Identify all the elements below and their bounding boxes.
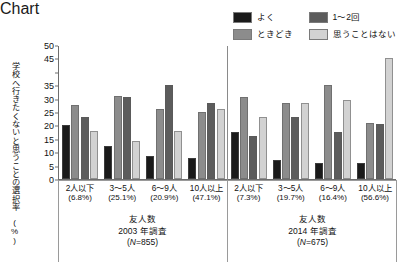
- bar: [259, 117, 267, 179]
- bar: [71, 105, 79, 179]
- bar: [207, 103, 215, 179]
- bar: [198, 112, 206, 179]
- y-tick-label: 30: [44, 95, 54, 105]
- bar-group: [59, 46, 101, 179]
- category-name: 2人以下: [234, 183, 263, 193]
- legend-swatch-icon: [233, 29, 252, 40]
- caption-line-3: (N=855): [58, 237, 227, 249]
- category-name: 6〜9人: [320, 183, 345, 193]
- bar-chart-figure: よく1〜2回ときどき思うことはない 学校へ行きたくないと思うことの選択率 (%)…: [0, 0, 407, 266]
- category-name: 3〜5人: [110, 183, 135, 193]
- bar-groups: [59, 46, 396, 179]
- y-tick-mark: [55, 166, 58, 167]
- y-tick-mark: [55, 46, 58, 47]
- bar-group: [354, 46, 396, 179]
- bar: [376, 124, 384, 179]
- y-tick-mark: [55, 126, 58, 127]
- bar: [188, 158, 196, 179]
- bar: [315, 163, 323, 179]
- y-tick-label: 10: [44, 148, 54, 158]
- y-axis-unit: (%): [4, 218, 19, 245]
- category-label: 3〜5人(25.1%): [101, 183, 143, 203]
- legend-label: 思うことはない: [333, 30, 396, 39]
- category-name: 10人以上: [358, 183, 391, 193]
- legend-swatch-icon: [309, 29, 328, 40]
- bar: [249, 136, 257, 179]
- bar: [217, 109, 225, 179]
- y-tick-label: 50: [44, 41, 54, 51]
- y-tick-mark: [55, 153, 58, 154]
- legend-item-1: よく: [233, 12, 299, 23]
- bar-group: [228, 46, 270, 179]
- caption-line-2: 2014 年調査: [228, 226, 397, 238]
- legend-label: 1〜2回: [333, 13, 360, 22]
- bar: [132, 141, 140, 179]
- category-percent: (16.4%): [312, 193, 354, 203]
- y-tick-mark: [55, 99, 58, 100]
- legend-item-2: 1〜2回: [309, 12, 402, 23]
- y-tick-label: 0: [49, 175, 54, 185]
- bar-group: [270, 46, 312, 179]
- category-name: 10人以上: [190, 183, 223, 193]
- y-tick-label: 35: [44, 81, 54, 91]
- bar: [165, 85, 173, 179]
- bar: [343, 100, 351, 179]
- category-name: 2人以下: [66, 183, 95, 193]
- bar: [273, 160, 281, 179]
- bar: [90, 131, 98, 179]
- category-percent: (25.1%): [101, 193, 143, 203]
- bar-group: [185, 46, 227, 179]
- legend-label: よく: [257, 13, 275, 22]
- y-tick-label: 45: [44, 54, 54, 64]
- caption-line-3: (N=675): [228, 237, 397, 249]
- bar: [114, 96, 122, 179]
- y-tick-label: 15: [44, 135, 54, 145]
- legend-swatch-icon: [233, 12, 252, 23]
- y-tick-mark: [55, 86, 58, 87]
- category-name: 6〜9人: [152, 183, 177, 193]
- y-tick-label: 20: [44, 121, 54, 131]
- panel-caption-2014: 友人数2014 年調査(N=675): [228, 214, 397, 249]
- chart-legend: よく1〜2回ときどき思うことはない: [233, 12, 401, 40]
- category-label: 6〜9人(16.4%): [312, 183, 354, 203]
- category-name: 3〜5人: [278, 183, 303, 193]
- category-label: 3〜5人(19.7%): [270, 183, 312, 203]
- bar: [301, 103, 309, 179]
- category-label: 10人以上(56.6%): [354, 183, 396, 203]
- category-percent: (6.8%): [59, 193, 101, 203]
- category-percent: (20.9%): [143, 193, 185, 203]
- legend-label: ときどき: [257, 30, 293, 39]
- bar: [123, 97, 131, 179]
- bar: [366, 123, 374, 179]
- bar: [62, 125, 70, 179]
- bar: [81, 117, 89, 179]
- category-percent: (7.3%): [228, 193, 270, 203]
- bar: [282, 103, 290, 179]
- bar: [174, 131, 182, 179]
- category-labels: 2人以下(6.8%)3〜5人(25.1%)6〜9人(20.9%)10人以上(47…: [59, 183, 396, 203]
- bar: [231, 132, 239, 179]
- plot-area: 051015202530354550: [58, 46, 396, 180]
- bar-group: [143, 46, 185, 179]
- sample-size-symbol: N: [130, 237, 136, 247]
- legend-item-4: 思うことはない: [309, 29, 402, 40]
- category-label: 2人以下(6.8%): [59, 183, 101, 203]
- bar: [385, 58, 393, 179]
- category-label: 10人以上(47.1%): [185, 183, 227, 203]
- sample-size-symbol: N: [300, 237, 306, 247]
- bar: [156, 109, 164, 179]
- caption-line-1: 友人数: [58, 214, 227, 226]
- bar: [240, 97, 248, 179]
- category-label: 2人以下(7.3%): [228, 183, 270, 203]
- bar: [334, 132, 342, 179]
- bar: [104, 146, 112, 180]
- category-percent: (19.7%): [270, 193, 312, 203]
- y-axis-title: 学校へ行きたくないと思うことの選択率: [4, 44, 19, 229]
- bar: [357, 163, 365, 179]
- bar: [324, 85, 332, 179]
- bar: [146, 156, 154, 179]
- legend-swatch-icon: [309, 12, 328, 23]
- panel-caption-2003: 友人数2003 年調査(N=855): [58, 214, 227, 249]
- category-label: 6〜9人(20.9%): [143, 183, 185, 203]
- y-tick-label: 5: [49, 162, 54, 172]
